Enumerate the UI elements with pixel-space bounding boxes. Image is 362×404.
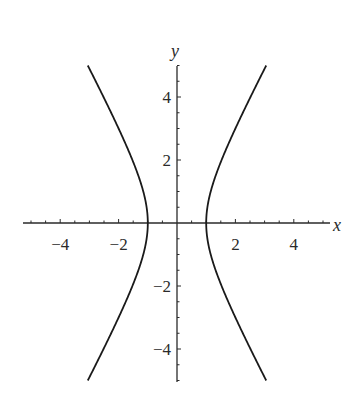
y-tick-label: 4	[163, 88, 172, 107]
x-tick-label: −4	[51, 235, 70, 254]
x-axis-label: x	[332, 215, 341, 235]
y-tick-label: 2	[163, 151, 172, 170]
x-tick-label: 4	[290, 235, 299, 254]
axes	[23, 66, 330, 382]
y-tick-label: −2	[153, 277, 171, 296]
y-tick-label: −4	[153, 340, 172, 359]
x-tick-label: 2	[231, 235, 240, 254]
y-axis-label: y	[169, 41, 179, 61]
hyperbola-plot: −4−224−4−224 x y	[0, 0, 362, 404]
x-tick-label: −2	[110, 235, 128, 254]
